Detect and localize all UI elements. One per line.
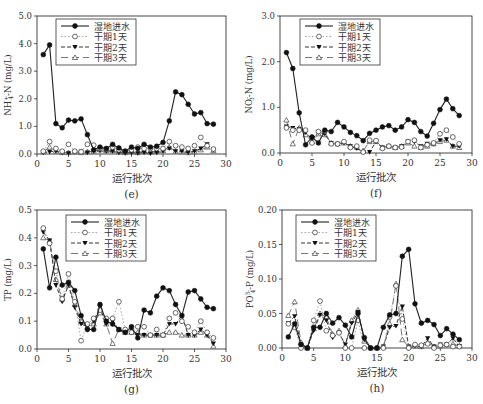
marker-filled-circle	[135, 335, 140, 340]
panel-label: (h)	[370, 382, 385, 394]
marker-filled-circle	[316, 141, 321, 146]
marker-open-circle	[444, 128, 449, 133]
x-tick-label: 20	[157, 354, 169, 364]
marker-filled-circle	[41, 52, 46, 57]
marker-filled-circle	[330, 321, 335, 326]
marker-open-circle	[457, 344, 462, 349]
y-axis-label: TP (mg/L)	[3, 258, 13, 301]
marker-filled-circle	[297, 110, 302, 115]
marker-filled-circle	[104, 319, 109, 324]
chart-f: 0510152025300.01.02.03.0运行批次NO-3-N (mg/L…	[241, 0, 483, 202]
marker-filled-circle	[406, 117, 411, 122]
legend-label: 干期3天	[334, 249, 367, 259]
marker-filled-triangle	[400, 305, 405, 310]
marker-open-circle	[343, 346, 348, 351]
marker-filled-circle	[192, 288, 197, 293]
legend-label: 干期3天	[104, 249, 137, 259]
chart-g: 0510152025300.00.10.20.30.40.5运行批次TP (mg…	[0, 202, 241, 404]
legend-label: 干期1天	[94, 32, 127, 42]
marker-open-circle	[330, 333, 335, 338]
marker-open-circle	[72, 299, 77, 304]
x-tick-label: 10	[94, 159, 106, 169]
marker-open-circle	[311, 318, 316, 323]
legend-label: 干期2天	[104, 239, 137, 249]
marker-filled-circle	[85, 132, 90, 137]
marker-open-circle	[66, 272, 71, 277]
marker-open-circle	[211, 147, 216, 152]
marker-filled-circle	[192, 112, 197, 117]
marker-open-circle	[186, 324, 191, 329]
marker-open-circle	[290, 128, 295, 133]
marker-open-circle	[211, 335, 216, 340]
marker-open-circle	[167, 316, 172, 321]
marker-filled-circle	[180, 92, 185, 97]
x-tick-label: 30	[466, 353, 478, 363]
x-tick-label: 25	[434, 158, 446, 168]
marker-filled-circle	[123, 149, 128, 154]
marker-filled-circle	[91, 147, 96, 152]
marker-filled-circle	[47, 285, 52, 290]
marker-open-circle	[361, 150, 366, 155]
marker-filled-circle	[438, 333, 443, 338]
chart-panel-f: 0510152025300.01.02.03.0运行批次NO-3-N (mg/L…	[241, 0, 483, 202]
marker-open-circle	[393, 145, 398, 150]
legend-label: 湿地进水	[94, 21, 130, 32]
marker-open-circle	[47, 241, 52, 246]
marker-open-circle	[148, 333, 153, 338]
marker-open-circle	[91, 316, 96, 321]
marker-filled-circle	[129, 145, 134, 150]
marker-open-circle	[394, 284, 399, 289]
marker-open-circle	[154, 327, 159, 332]
marker-open-circle	[457, 141, 462, 146]
marker-filled-circle	[205, 305, 210, 310]
y-tick-label: 0.0	[261, 148, 275, 158]
marker-filled-circle	[292, 321, 297, 326]
marker-filled-triangle	[387, 325, 392, 330]
marker-filled-triangle	[173, 322, 178, 327]
marker-open-circle	[198, 135, 203, 140]
legend-label: 湿地进水	[104, 217, 140, 228]
marker-open-circle	[318, 299, 323, 304]
marker-open-triangle	[387, 321, 392, 326]
x-tick-label: 5	[311, 353, 317, 363]
marker-filled-circle	[79, 117, 84, 122]
marker-open-circle	[425, 341, 430, 346]
marker-open-circle	[41, 149, 46, 154]
marker-open-circle	[186, 146, 191, 151]
marker-filled-circle	[318, 325, 323, 330]
marker-filled-circle	[374, 128, 379, 133]
marker-filled-circle	[432, 322, 437, 327]
chart-h: 0510152025300.000.050.100.150.20运行批次PO3-…	[241, 202, 483, 404]
marker-filled-circle	[148, 310, 153, 315]
marker-open-triangle	[400, 337, 405, 342]
marker-filled-triangle	[72, 305, 77, 310]
marker-filled-circle	[129, 324, 134, 329]
marker-open-triangle	[290, 141, 295, 146]
marker-filled-circle	[413, 301, 418, 306]
marker-open-circle	[192, 330, 197, 335]
y-tick-label: 0.0	[18, 149, 32, 159]
marker-filled-circle	[198, 110, 203, 115]
marker-open-triangle	[286, 313, 291, 318]
marker-open-circle	[367, 138, 372, 143]
y-tick-label: 2.0	[18, 94, 32, 104]
legend-label: 干期2天	[94, 43, 127, 53]
marker-open-circle	[438, 131, 443, 136]
legend-label: 干期2天	[334, 239, 367, 249]
marker-filled-circle	[381, 325, 386, 330]
marker-filled-circle	[444, 326, 449, 331]
x-tick-label: 25	[189, 159, 201, 169]
legend-label: 干期3天	[94, 53, 127, 63]
marker-open-circle	[205, 143, 210, 148]
marker-filled-circle	[348, 130, 353, 135]
marker-filled-circle	[313, 220, 318, 225]
marker-open-circle	[380, 146, 385, 151]
marker-filled-circle	[438, 107, 443, 112]
marker-open-circle	[180, 319, 185, 324]
legend-label: 干期2天	[338, 43, 371, 53]
marker-open-circle	[72, 149, 77, 154]
marker-filled-circle	[387, 312, 392, 317]
marker-filled-circle	[368, 346, 373, 351]
marker-filled-circle	[324, 311, 329, 316]
y-tick-label: 0.2	[18, 288, 32, 298]
